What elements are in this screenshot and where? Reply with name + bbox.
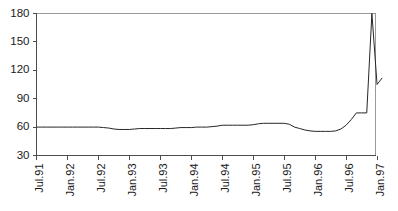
y-tick-label: 30 — [17, 149, 30, 161]
x-tick-label: Jan.95 — [250, 164, 262, 197]
y-tick-label: 120 — [10, 63, 29, 75]
x-tick-label: Jul.95 — [281, 164, 293, 193]
x-tick-label: Jul.94 — [219, 164, 231, 193]
chart-container: 306090120150180 Jul.91Jan.92Jul.92Jan.93… — [0, 0, 398, 211]
y-tick-label: 90 — [17, 92, 30, 104]
x-tick-label: Jan.93 — [126, 164, 138, 197]
line-chart: 306090120150180 Jul.91Jan.92Jul.92Jan.93… — [0, 0, 398, 211]
x-tick-label: Jan.97 — [374, 164, 386, 197]
x-tick-label: Jul.96 — [343, 164, 355, 193]
y-tick-label: 180 — [10, 7, 29, 19]
x-tick-label: Jan.92 — [64, 164, 76, 197]
x-tick-label: Jan.94 — [188, 164, 200, 197]
x-tick-label: Jul.91 — [33, 164, 45, 193]
y-tick-label: 150 — [10, 35, 29, 47]
x-tick-label: Jul.93 — [157, 164, 169, 193]
x-tick-label: Jan.96 — [312, 164, 324, 197]
y-tick-label: 60 — [17, 120, 30, 132]
x-tick-label: Jul.92 — [95, 164, 107, 193]
